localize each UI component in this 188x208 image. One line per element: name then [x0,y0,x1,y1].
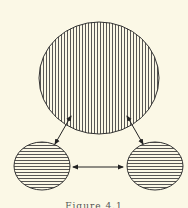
figure-caption: Figure 4.1 [0,201,188,208]
diagram-canvas [0,0,188,208]
right-node-ellipse [127,142,183,190]
left-node-ellipse [14,142,70,190]
top-node-ellipse [39,22,159,134]
